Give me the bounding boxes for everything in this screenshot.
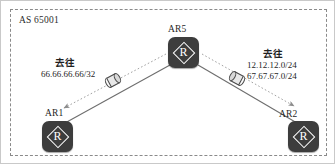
- annotation-right-route-1: 12.12.12.0/24: [247, 60, 297, 72]
- node-label-ar1: AR1: [45, 108, 64, 118]
- annotation-right-route-2: 67.67.67.0/24: [247, 71, 297, 83]
- node-label-ar5: AR5: [168, 24, 187, 34]
- network-diagram-canvas: AS 65001 AR5 R AR1 R AR2 R 去往 66.66.66.6…: [0, 0, 335, 164]
- annotation-right-heading: 去往: [263, 48, 297, 60]
- annotation-left: 去往 66.66.66.66/32: [41, 57, 95, 80]
- router-glyph: R: [288, 121, 319, 152]
- annotation-left-route-1: 66.66.66.66/32: [41, 69, 95, 81]
- annotation-left-heading: 去往: [55, 57, 95, 69]
- router-node-ar2[interactable]: R: [288, 121, 319, 152]
- router-glyph: R: [42, 121, 73, 152]
- router-glyph: R: [168, 37, 199, 68]
- router-node-ar5[interactable]: R: [168, 37, 199, 68]
- annotation-right: 去往 12.12.12.0/24 67.67.67.0/24: [247, 48, 297, 83]
- node-label-ar2: AR2: [279, 109, 298, 119]
- router-node-ar1[interactable]: R: [42, 121, 73, 152]
